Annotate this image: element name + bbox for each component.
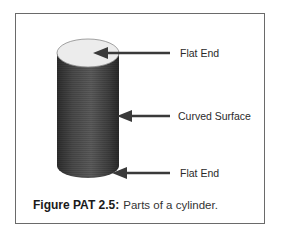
figure-number: Figure PAT 2.5:	[33, 198, 119, 212]
arrow-top-flat-end	[93, 47, 170, 59]
arrow-curved-surface	[117, 110, 170, 122]
figure-caption: Figure PAT 2.5:Parts of a cylinder.	[33, 199, 218, 212]
arrow-bottom-flat-end	[112, 167, 170, 179]
label-bottom-flat-end: Flat End	[180, 168, 219, 179]
figure-caption-text: Parts of a cylinder.	[123, 199, 218, 211]
label-top-flat-end: Flat End	[180, 48, 219, 59]
cylinder-body	[57, 54, 119, 178]
label-curved-surface: Curved Surface	[178, 111, 251, 122]
